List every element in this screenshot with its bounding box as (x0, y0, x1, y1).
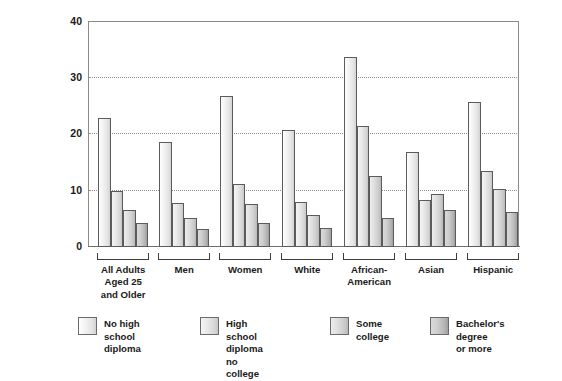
bar (220, 96, 233, 247)
bar (307, 215, 320, 247)
x-group-bracket (281, 253, 333, 260)
bar (295, 202, 308, 247)
bar-group (159, 21, 209, 247)
bar (320, 228, 333, 247)
bar (444, 210, 457, 247)
bar (172, 203, 185, 247)
legend-swatch (200, 317, 219, 335)
bar (111, 191, 124, 248)
x-axis-label-line: Aged 25 (73, 276, 173, 288)
bar (233, 184, 246, 247)
x-axis-label: Hispanic (443, 264, 543, 276)
bar (468, 102, 481, 247)
legend-swatch (430, 317, 449, 335)
bar (245, 204, 258, 247)
x-group-bracket (405, 253, 457, 260)
x-group-bracket (219, 253, 271, 260)
x-axis-label-line: and Older (73, 289, 173, 301)
bar (506, 212, 519, 247)
bar (184, 218, 197, 247)
bar (123, 210, 136, 247)
bar (431, 194, 444, 247)
legend-label: No high school diploma (104, 318, 141, 356)
x-group-bracket (97, 253, 149, 260)
bar-group (220, 21, 270, 247)
bar (258, 223, 271, 247)
y-tick-10: 10 (56, 184, 82, 196)
x-axis-label-line: American (319, 276, 419, 288)
bar (136, 223, 149, 247)
y-tick-40: 40 (56, 15, 82, 27)
x-group-bracket (158, 253, 210, 260)
bar (98, 118, 111, 247)
x-group-bracket (467, 253, 519, 260)
bar (282, 130, 295, 247)
legend-swatch (78, 317, 97, 335)
x-axis-label-line: Hispanic (443, 264, 543, 276)
x-group-bracket (343, 253, 395, 260)
legend-label: Bachelor's degree or more (456, 318, 505, 356)
bar (419, 200, 432, 247)
bar (382, 218, 395, 247)
y-tick-0: 0 (56, 240, 82, 252)
y-tick-20: 20 (56, 127, 82, 139)
bar (369, 176, 382, 247)
bar (344, 57, 357, 247)
chart-legend: No high school diplomaHigh school diplom… (0, 316, 562, 358)
bar (406, 152, 419, 247)
bar (197, 229, 210, 247)
bar-group (406, 21, 456, 247)
bar (159, 142, 172, 247)
bar-group (282, 21, 332, 247)
legend-label: High school diploma no college (226, 318, 263, 381)
bar-groups (88, 21, 519, 247)
legend-swatch (330, 317, 349, 335)
bar-group (468, 21, 518, 247)
y-tick-30: 30 (56, 71, 82, 83)
bar (357, 126, 370, 247)
bar-group (98, 21, 148, 247)
bar (481, 171, 494, 247)
legend-label: Some college (356, 318, 389, 343)
bar-group (344, 21, 394, 247)
bar (493, 189, 506, 247)
